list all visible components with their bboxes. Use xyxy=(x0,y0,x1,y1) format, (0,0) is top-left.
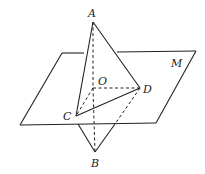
label-m: M xyxy=(170,57,183,70)
plane-edge-bottom xyxy=(20,123,156,125)
plane-m xyxy=(20,51,196,125)
visible-edges xyxy=(76,22,140,152)
plane-edge-left xyxy=(20,53,62,125)
geometry-diagram: A O D C B M xyxy=(0,0,205,174)
label-a: A xyxy=(87,7,96,20)
label-d: D xyxy=(142,83,152,96)
segment-a-c xyxy=(76,22,93,116)
label-b: B xyxy=(90,157,99,170)
segment-o-b xyxy=(93,88,95,152)
segment-c-b xyxy=(78,124,95,152)
label-c: C xyxy=(63,110,72,123)
label-o: O xyxy=(98,75,107,88)
segment-d-b-visible xyxy=(95,124,115,152)
hidden-edges xyxy=(76,22,140,152)
plane-edge-top-right xyxy=(117,51,196,52)
